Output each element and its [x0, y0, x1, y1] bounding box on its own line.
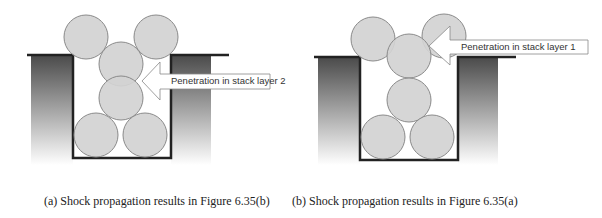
caption-b: (b) Shock propagation results in Figure …	[292, 194, 518, 209]
left-wall	[318, 57, 360, 165]
caption-a: (a) Shock propagation results in Figure …	[44, 194, 270, 209]
left-wall	[31, 55, 73, 165]
diagram-panel-b: Penetration in stack layer 1	[301, 0, 602, 170]
right-wall	[171, 55, 211, 165]
arrow-label-b: Penetration in stack layer 1	[461, 41, 576, 52]
stack-diagram-b	[301, 0, 602, 170]
right-wall	[458, 57, 498, 165]
diagram-panel-a: Penetration in stack layer 2	[0, 0, 301, 170]
arrow-label-a: Penetration in stack layer 2	[171, 75, 286, 86]
